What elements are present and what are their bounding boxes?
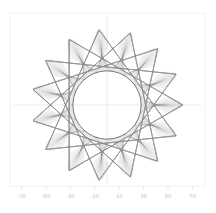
x-axis-tick-labels: -70-50-30-1010305070 [17, 193, 195, 199]
figure-canvas: -70-50-30-1010305070 [0, 0, 216, 213]
spiro-chord [33, 33, 130, 121]
spiro-ray-mirror [125, 134, 157, 151]
spirograph-plot: -70-50-30-1010305070 [0, 0, 216, 213]
spiro-ray-mirror [134, 50, 150, 84]
plot-frame [10, 13, 205, 186]
x-tick-label: 70 [189, 193, 196, 199]
axis-lines [14, 17, 201, 183]
spiro-chord [130, 33, 157, 161]
spiro-ray-mirror [114, 138, 133, 172]
spiro-ray-mirror [44, 105, 73, 125]
spiro-ray-mirror [68, 48, 95, 73]
spiro-chord [46, 61, 176, 75]
x-tick-label: -10 [91, 193, 99, 199]
x-axis-tick-marks [22, 186, 193, 189]
spiro-chord [130, 49, 157, 177]
spiro-ray-mirror [58, 119, 76, 149]
spiro-ray-mirror [56, 120, 76, 150]
spiro-chord [46, 136, 176, 150]
x-tick-label: -30 [66, 193, 74, 199]
x-tick-label: 50 [165, 193, 172, 199]
spiro-ray-mirror [124, 134, 155, 149]
x-tick-label: 10 [116, 193, 123, 199]
spiro-ray-mirror [68, 51, 96, 72]
spiro-ray-mirror [127, 133, 158, 156]
spiro-ray-mirror [126, 133, 158, 154]
x-tick-label: -70 [17, 193, 25, 199]
x-tick-label: 30 [140, 193, 147, 199]
spiro-ray-mirror [124, 135, 155, 148]
spiro-chord [33, 89, 130, 177]
spiro-ray-mirror [37, 108, 73, 124]
spiro-ray-mirror [140, 72, 170, 96]
spiro-ray-mirror [140, 72, 168, 96]
spiro-ray-mirror [54, 121, 76, 151]
x-tick-label: -50 [42, 193, 50, 199]
